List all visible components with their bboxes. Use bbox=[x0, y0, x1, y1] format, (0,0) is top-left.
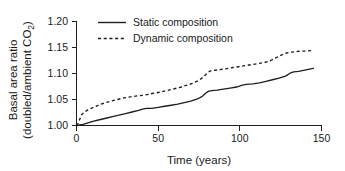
series-line-static-composition bbox=[77, 68, 314, 125]
x-axis-title: Time (years) bbox=[167, 154, 231, 166]
y-axis-title-line2-suffix: ) bbox=[21, 21, 33, 25]
y-axis-title-line1: Basal area ratio bbox=[7, 40, 19, 121]
x-tick-label-0: 0 bbox=[74, 132, 80, 144]
y-tick-label-1.05: 1.05 bbox=[48, 93, 69, 105]
y-tick-label-1.15: 1.15 bbox=[48, 41, 69, 53]
x-axis-ticks: 0 50 100 150 bbox=[74, 126, 331, 145]
series-line-dynamic-composition bbox=[77, 51, 314, 126]
legend-label-static: Static composition bbox=[133, 16, 218, 28]
legend-label-dynamic: Dynamic composition bbox=[133, 32, 233, 44]
y-tick-label-1.20: 1.20 bbox=[48, 15, 69, 27]
chart-svg: Basal area ratio (doubled/ambient CO2) 1… bbox=[0, 0, 345, 171]
x-tick-label-150: 150 bbox=[313, 132, 331, 144]
x-tick-label-100: 100 bbox=[231, 132, 249, 144]
x-tick-label-50: 50 bbox=[152, 132, 164, 144]
chart-legend: Static composition Dynamic composition bbox=[98, 16, 233, 44]
y-tick-label-1.00: 1.00 bbox=[48, 119, 69, 131]
y-axis-title: Basal area ratio (doubled/ambient CO2) bbox=[7, 21, 36, 139]
y-axis-title-line2-prefix: (doubled/ambient CO bbox=[21, 30, 33, 139]
y-axis-title-line2: (doubled/ambient CO2) bbox=[21, 21, 36, 139]
y-axis-ticks: 1.00 1.05 1.10 1.15 1.20 bbox=[48, 15, 77, 131]
chart-figure: Basal area ratio (doubled/ambient CO2) 1… bbox=[0, 0, 345, 171]
y-tick-label-1.10: 1.10 bbox=[48, 67, 69, 79]
